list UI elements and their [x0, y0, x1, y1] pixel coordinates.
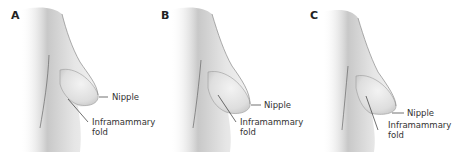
panel-b: B Nipple Inframammary fold — [150, 0, 305, 152]
fold-label-a-line1: Inframammary — [92, 117, 155, 127]
fold-label-c-line1: Inframammary — [388, 120, 451, 130]
nipple-label-b: Nipple — [264, 100, 291, 110]
nipple-label-a: Nipple — [112, 92, 139, 102]
panel-c: C Nipple Inframammary fold — [306, 0, 461, 152]
nipple-label-c: Nipple — [407, 108, 434, 118]
fold-label-b-line2: fold — [240, 127, 256, 137]
panel-b-letter: B — [161, 9, 169, 22]
panel-c-letter: C — [310, 9, 318, 22]
panel-a: A Nipple Inframammary fold — [0, 0, 155, 152]
fold-label-a-line2: fold — [92, 127, 108, 137]
fold-label-c-line2: fold — [388, 130, 404, 140]
panel-a-letter: A — [11, 9, 20, 22]
fold-label-b-line1: Inframammary — [240, 117, 303, 127]
